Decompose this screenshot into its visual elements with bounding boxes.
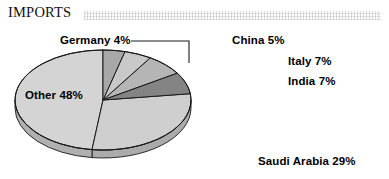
slice-label-italy: Italy 7% (288, 55, 332, 68)
figure-header: IMPORTS (0, 0, 389, 27)
slice-label-india: India 7% (288, 75, 335, 88)
slice-label-germany: Germany 4% (60, 34, 131, 47)
slice-label-other: Other 48% (25, 89, 83, 102)
header-rule-divider (84, 11, 381, 20)
slice-label-saudi-arabia: Saudi Arabia 29% (258, 155, 356, 168)
pie-slice-saudi-arabia (92, 94, 191, 150)
chart-area: Germany 4% China 5% Italy 7% India 7% Ot… (0, 27, 389, 179)
slice-label-china: China 5% (232, 34, 285, 47)
imports-pie-chart-figure: IMPORTS Germany 4% China (0, 0, 389, 179)
page-title: IMPORTS (8, 3, 71, 21)
